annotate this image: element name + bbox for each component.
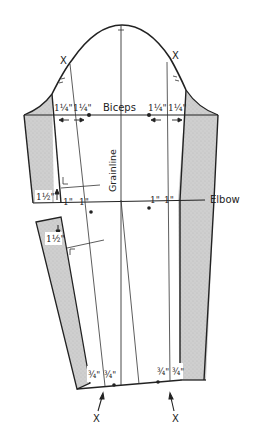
grainline-label: Grainline [107, 149, 118, 192]
biceps-right-outer: 1¼" [168, 103, 187, 113]
elbow-label: Elbow [210, 194, 240, 205]
elbow-right-dot [147, 206, 151, 210]
notch-right-top: X [172, 50, 179, 61]
biceps-right-dot [147, 113, 151, 117]
notch-left-bottom: X [93, 413, 100, 424]
biceps-left-inner: 1¼" [73, 103, 92, 113]
notch-right-bottom: X [172, 413, 179, 424]
biceps-label: Biceps [103, 102, 136, 113]
left-upper-shaded-panel [24, 94, 54, 203]
wrist-left-outer: ¾" [88, 370, 100, 380]
wrist-right-inner: ¾" [157, 367, 169, 377]
notch-left-top: X [60, 55, 67, 66]
side-upper: 1½" [36, 192, 55, 202]
biceps-left-dot [87, 113, 91, 117]
wrist-right-dot [156, 380, 160, 384]
wrist-right-outer: ¾" [172, 367, 184, 377]
elbow-left-inner: 1" [79, 197, 89, 207]
elbow-left-dot [89, 210, 93, 214]
elbow-left-outer: 1" [63, 197, 73, 207]
wrist-left-dot [112, 383, 116, 387]
center-slant-line [121, 200, 139, 384]
sleeve-pattern-diagram: Biceps Elbow Grainline X X X X 1¼" 1¼" 1… [0, 0, 256, 440]
wrist-left-inner: ¾" [104, 370, 116, 380]
biceps-left-outer: 1¼" [54, 103, 73, 113]
elbow-right-inner: 1" [150, 195, 160, 205]
biceps-right-inner: 1¼" [148, 103, 167, 113]
side-lower: 1½" [46, 234, 65, 244]
elbow-right-outer: 1" [164, 195, 174, 205]
